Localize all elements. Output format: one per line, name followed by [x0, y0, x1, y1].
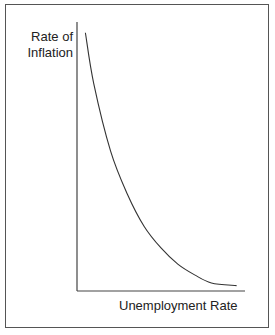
x-axis-label: Unemployment Rate	[119, 298, 238, 313]
y-axis-label: Rate of Inflation	[27, 29, 73, 61]
y-axis-label-line-2: Inflation	[27, 45, 73, 61]
y-axis-label-line-1: Rate of	[27, 29, 73, 45]
phillips-curve	[85, 33, 236, 286]
